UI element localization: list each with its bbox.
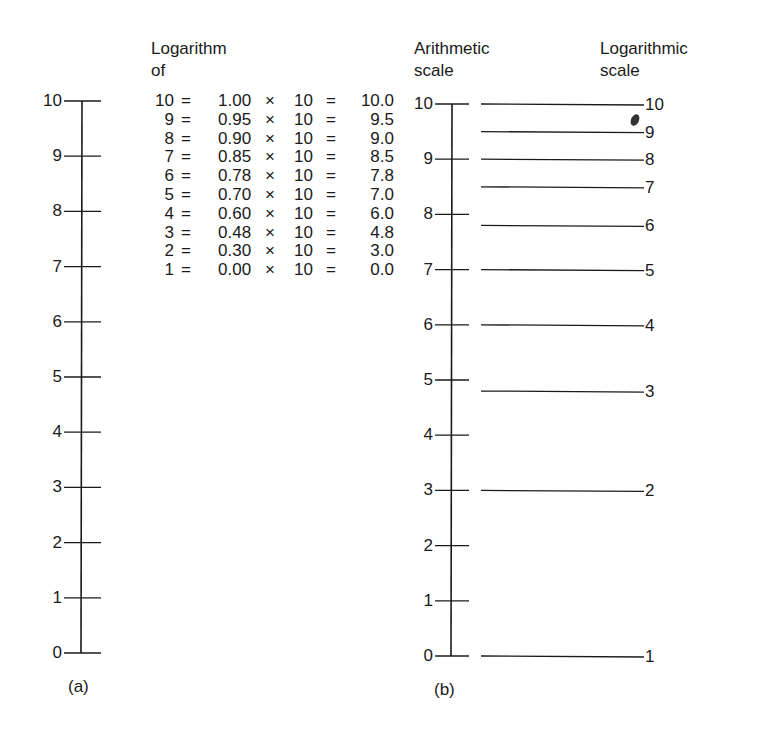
log-scale-label: 2	[645, 481, 654, 501]
log-scale-line	[481, 325, 644, 326]
table-cell-result: 8.5	[346, 148, 394, 167]
table-cell-times: ×	[265, 205, 275, 224]
table-cell-times: ×	[265, 186, 275, 205]
table-cell-result: 3.0	[346, 242, 394, 261]
table-cell-eq2: =	[326, 261, 336, 280]
log-scale-line	[481, 270, 644, 271]
table-cell-eq2: =	[326, 167, 336, 186]
table-cell-times: ×	[265, 130, 275, 149]
axis-a-tick-label: 9	[22, 146, 62, 166]
axis-a-tick-label: 6	[22, 312, 62, 332]
table-cell-eq: =	[181, 186, 191, 205]
table-cell-result: 4.8	[346, 224, 394, 243]
table-cell-eq2: =	[326, 242, 336, 261]
log-scale-line	[481, 159, 644, 160]
log-scale-label: 6	[645, 216, 654, 236]
axis-a-tick-label: 7	[22, 257, 62, 277]
log-scale-label: 4	[645, 316, 654, 336]
axis-b-tick-label: 10	[393, 94, 433, 114]
log-scale-line	[481, 225, 644, 226]
table-cell-log: 0.90	[218, 130, 251, 149]
table-cell-log: 0.70	[218, 186, 251, 205]
log-scale-line	[481, 490, 644, 491]
table-cell-log: 0.85	[218, 148, 251, 167]
axis-b-tick-label: 0	[393, 646, 433, 666]
table-cell-log: 0.00	[218, 261, 251, 280]
table-cell-n: 5	[150, 186, 174, 205]
axis-a-tick-label: 2	[22, 533, 62, 553]
axis-b-tick-label: 7	[393, 260, 433, 280]
log-scale-label: 10	[645, 95, 664, 115]
axis-a-tick-label: 0	[22, 643, 62, 663]
axis-b-tick-label: 1	[393, 591, 433, 611]
table-cell-ten: 10	[294, 186, 313, 205]
table-cell-ten: 10	[294, 242, 313, 261]
axis-a-tick-label: 8	[22, 201, 62, 221]
arithmetic-header-line2: scale	[414, 60, 454, 81]
table-cell-result: 10.0	[346, 92, 394, 111]
table-cell-ten: 10	[294, 130, 313, 149]
table-cell-eq: =	[181, 205, 191, 224]
table-cell-ten: 10	[294, 261, 313, 280]
table-cell-n: 10	[150, 92, 174, 111]
table-cell-times: ×	[265, 261, 275, 280]
ink-blot	[629, 113, 641, 127]
table-cell-n: 4	[150, 205, 174, 224]
table-cell-n: 1	[150, 261, 174, 280]
axis-a-tick-label: 1	[22, 588, 62, 608]
table-cell-n: 6	[150, 167, 174, 186]
table-cell-n: 2	[150, 242, 174, 261]
log-scale-label: 5	[645, 261, 654, 281]
table-cell-log: 0.95	[218, 111, 251, 130]
log-scale-label: 8	[645, 150, 654, 170]
axis-a-tick-label: 5	[22, 367, 62, 387]
table-cell-eq: =	[181, 224, 191, 243]
axis-b-tick-label: 4	[393, 425, 433, 445]
table-cell-eq2: =	[326, 148, 336, 167]
axis-a-tick-label: 3	[22, 477, 62, 497]
table-cell-eq2: =	[326, 224, 336, 243]
log-scale-label: 3	[645, 382, 654, 402]
log-scale-line	[481, 656, 644, 657]
table-cell-result: 9.5	[346, 111, 394, 130]
table-cell-result: 7.8	[346, 167, 394, 186]
caption-b: (b)	[434, 680, 455, 700]
table-cell-log: 0.48	[218, 224, 251, 243]
log-scale-label: 9	[645, 123, 654, 143]
table-cell-eq: =	[181, 111, 191, 130]
table-cell-n: 7	[150, 148, 174, 167]
table-cell-result: 0.0	[346, 261, 394, 280]
log-scale-line	[481, 132, 644, 133]
table-cell-times: ×	[265, 242, 275, 261]
table-header-line2: of	[151, 60, 165, 81]
caption-a: (a)	[68, 677, 89, 697]
table-cell-eq2: =	[326, 130, 336, 149]
table-cell-result: 9.0	[346, 130, 394, 149]
log-scale-line	[481, 104, 644, 105]
table-cell-n: 3	[150, 224, 174, 243]
table-cell-eq: =	[181, 130, 191, 149]
table-cell-eq: =	[181, 148, 191, 167]
log-scale-line	[481, 391, 644, 392]
table-cell-result: 7.0	[346, 186, 394, 205]
axis-b-tick-label: 3	[393, 480, 433, 500]
axis-b-tick-label: 8	[393, 204, 433, 224]
table-cell-ten: 10	[294, 148, 313, 167]
table-cell-log: 0.60	[218, 205, 251, 224]
table-cell-eq2: =	[326, 92, 336, 111]
axis-b-tick-label: 6	[393, 315, 433, 335]
table-cell-eq2: =	[326, 205, 336, 224]
table-cell-ten: 10	[294, 224, 313, 243]
table-header-line1: Logarithm	[151, 38, 227, 59]
logarithmic-header-line1: Logarithmic	[600, 38, 688, 59]
arithmetic-header-line1: Arithmetic	[414, 38, 490, 59]
table-cell-result: 6.0	[346, 205, 394, 224]
log-scale-lines	[481, 104, 644, 657]
table-cell-log: 0.30	[218, 242, 251, 261]
table-cell-times: ×	[265, 111, 275, 130]
table-cell-ten: 10	[294, 92, 313, 111]
table-cell-times: ×	[265, 92, 275, 111]
table-cell-eq2: =	[326, 111, 336, 130]
axis-a-tick-label: 10	[22, 91, 62, 111]
table-cell-ten: 10	[294, 205, 313, 224]
